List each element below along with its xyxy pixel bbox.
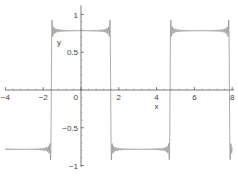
axis-labels: −4−202468−1−0.50.51xy	[1, 11, 235, 171]
y-tick-label: −1	[69, 162, 79, 171]
x-tick-label: −2	[39, 93, 49, 102]
chart-plot: −4−202468−1−0.50.51xy	[0, 0, 238, 183]
y-tick-label: 0.5	[67, 48, 79, 57]
y-tick-label: −0.5	[62, 124, 78, 133]
x-tick-label: 4	[154, 93, 159, 102]
x-tick-label: −4	[1, 93, 11, 102]
y-tick-label: 1	[74, 11, 79, 20]
x-tick-label: 2	[117, 93, 122, 102]
x-tick-label: 8	[230, 93, 235, 102]
x-tick-label: 6	[192, 93, 197, 102]
axes	[5, 5, 234, 167]
x-tick-label: 0	[74, 93, 79, 102]
x-axis-title: x	[155, 102, 159, 111]
y-axis-title: y	[57, 38, 61, 47]
